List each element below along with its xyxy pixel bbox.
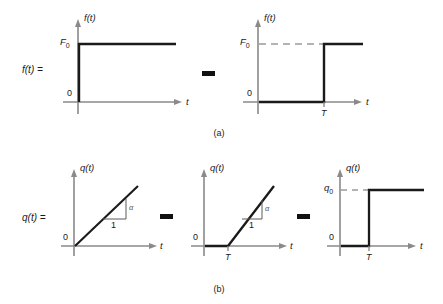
panel-ramp-from-origin: q(t) t 0 1 α [56,164,176,272]
caption-b: (b) [199,284,239,294]
curve-constant-step [79,44,176,102]
x-axis-arrow-icon [354,99,362,105]
caption-a: (a) [199,128,239,138]
y-axis-arrow-icon [337,169,343,177]
value-tick-label: F0 [60,36,70,49]
x-axis-label: t [186,96,189,107]
y-axis-arrow-icon [255,19,261,27]
figure-row-a: f(t) = f(t) t 0 F0 [0,0,443,152]
y-axis-arrow-icon [201,169,207,177]
x-axis-arrow-icon [279,243,287,249]
value-tick-subscript: 0 [66,42,70,49]
slope-angle-label: α [265,204,269,213]
slope-angle-label: α [129,203,133,212]
x-axis-arrow-icon [149,243,157,249]
panel-delayed-step: f(t) t 0 T F0 [238,14,378,126]
slope-run-label: 1 [111,220,116,230]
slope-run-label: 1 [249,220,254,230]
curve-delayed-step-q0 [341,190,424,246]
origin-tick-label: 0 [247,88,252,98]
row-b-lhs-label: q(t) = [22,212,46,223]
panel-delayed-ramp: q(t) t 0 T 1 α [186,164,311,276]
y-axis-label: q(t) [80,162,94,173]
x-axis-label: t [366,96,369,107]
minus-operator-a1 [202,71,215,76]
y-axis-label: f(t) [84,12,96,23]
x-axis-label: t [160,240,163,251]
y-axis-arrow-icon [75,19,81,27]
panel-constant-step: f(t) t 0 F0 [58,14,198,119]
x-axis-label: t [420,240,423,251]
value-tick-label: q0 [324,182,333,195]
origin-tick-label: 0 [329,232,334,242]
origin-tick-label: 0 [193,232,198,242]
value-tick-subscript: 0 [246,42,250,49]
t-tick-label: T [366,252,372,262]
minus-operator-b2 [297,214,310,219]
minus-operator-b1 [160,214,173,219]
x-axis-arrow-icon [408,243,416,249]
y-axis-label: q(t) [210,162,224,173]
figure-step-function-decomposition: f(t) = f(t) t 0 F0 [0,0,443,304]
panel-delayed-step-q0: q(t) t 0 T q0 [322,164,442,276]
value-tick-subscript: 0 [329,188,333,195]
y-axis-label: f(t) [264,12,276,23]
value-tick-label: F0 [240,36,250,49]
y-axis-arrow-icon [71,169,77,177]
origin-tick-label: 0 [67,88,72,98]
y-axis-label: q(t) [346,162,360,173]
figure-row-b: q(t) = q(t) t 0 1 α [0,152,443,304]
x-axis-label: t [290,240,293,251]
curve-ramp [75,186,138,246]
curve-delayed-ramp [205,186,274,246]
t-tick-label: T [321,108,327,118]
curve-delayed-step [259,44,363,102]
t-tick-label: T [225,252,231,262]
x-axis-arrow-icon [174,99,182,105]
row-a-lhs-label: f(t) = [22,64,43,75]
origin-tick-label: 0 [63,232,68,242]
